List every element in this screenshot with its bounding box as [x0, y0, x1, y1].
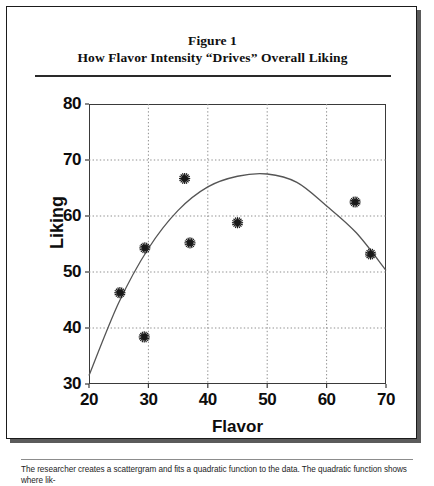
data-point	[184, 237, 195, 248]
data-point	[114, 287, 125, 298]
y-tick-label: 40	[41, 318, 81, 338]
data-point	[139, 242, 150, 253]
scatter-chart: 30 40 50 60 70 80 20 30 40 50 60 70 Liki…	[7, 7, 418, 440]
axis-ticks	[85, 104, 386, 388]
figure-container: Figure 1 How Flavor Intensity “Drives” O…	[6, 6, 417, 439]
x-tick-label: 30	[128, 390, 168, 410]
x-tick-label: 40	[188, 390, 228, 410]
data-point-group	[114, 173, 376, 343]
figure-caption: The researcher creates a scattergram and…	[21, 464, 419, 486]
x-axis-title: Flavor	[89, 417, 386, 437]
data-point	[365, 248, 376, 259]
data-point	[179, 173, 190, 184]
data-point	[139, 331, 150, 342]
x-tick-label: 70	[366, 390, 406, 410]
y-tick-label: 80	[41, 94, 81, 114]
plot-canvas	[89, 104, 386, 384]
data-point	[350, 196, 361, 207]
y-axis-title: Liking	[47, 168, 68, 278]
quadratic-fit-curve	[89, 174, 386, 376]
x-tick-label: 60	[307, 390, 347, 410]
caption-divider	[21, 459, 413, 460]
data-point	[232, 217, 243, 228]
x-tick-label: 50	[247, 390, 287, 410]
x-tick-label: 20	[69, 390, 109, 410]
gridlines	[89, 104, 386, 384]
